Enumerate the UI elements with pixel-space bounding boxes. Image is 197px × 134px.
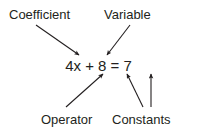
equation-parts-diagram: Coefficient Variable 4x + 8 = 7 Operator…	[0, 0, 197, 134]
variable-arrow	[107, 25, 130, 55]
constant-left-arrow	[127, 74, 143, 107]
operator-arrow	[66, 74, 103, 107]
arrow-layer	[0, 0, 197, 134]
coefficient-arrow	[36, 25, 79, 55]
